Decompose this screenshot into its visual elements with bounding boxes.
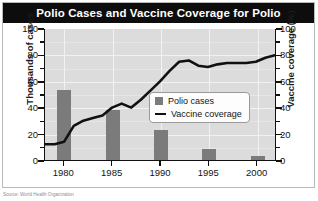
left-axis-ticklabels: 0 20 40 60 80 100 [10,24,38,166]
tick-x-1985 [111,161,113,166]
tick-right-60 [276,81,282,83]
tick-right-90 [276,41,280,42]
right-tick-20: 20 [280,129,308,140]
chart-title-bar: Polio Cases and Vaccine Coverage for Pol… [3,3,314,23]
legend-item-vaccine-coverage: Vaccine coverage [155,109,242,119]
legend-item-polio-cases: Polio cases [155,96,242,106]
left-tick-0: 0 [10,155,38,166]
tick-x-1995 [208,161,210,166]
tick-right-80 [276,55,282,57]
x-tick-label-2000: 2000 [246,167,267,178]
left-tick-100: 100 [10,23,38,34]
x-tick-label-1980: 1980 [53,167,74,178]
x-axis-ticklabels: 19801985199019952000 [44,167,276,180]
left-tick-80: 80 [10,49,38,60]
x-tick-label-1990: 1990 [149,167,170,178]
tick-right-100 [276,28,282,30]
x-tick-label-1985: 1985 [101,167,122,178]
tick-right-30 [276,121,280,122]
right-axis-ticklabels: 0 20 40 60 80 100 [280,24,308,166]
chart-legend: Polio cases Vaccine coverage [149,92,250,123]
tick-right-50 [276,94,280,95]
tick-right-40 [276,107,282,109]
tick-right-0 [276,160,282,162]
right-tick-60: 60 [280,76,308,87]
tick-right-10 [276,147,280,148]
right-tick-40: 40 [280,102,308,113]
left-tick-40: 40 [10,102,38,113]
legend-label-polio-cases: Polio cases [168,96,214,106]
tick-x-1980 [63,161,65,166]
tick-right-70 [276,68,280,69]
tick-x-1990 [159,161,161,166]
left-tick-60: 60 [10,76,38,87]
right-tick-80: 80 [280,49,308,60]
legend-label-vaccine-coverage: Vaccine coverage [171,109,242,119]
x-tick-label-1995: 1995 [198,167,219,178]
line-swatch-icon [155,113,166,116]
tick-right-20 [276,134,282,136]
chart-figure: Polio Cases and Vaccine Coverage for Pol… [0,0,318,201]
left-tick-20: 20 [10,129,38,140]
source-caption: Source: World Health Organization [3,190,303,199]
right-tick-100: 100 [280,23,308,34]
square-swatch-icon [155,97,163,105]
right-tick-0: 0 [280,155,308,166]
page-title: Polio Cases and Vaccine Coverage for Pol… [36,7,281,19]
tick-x-2000 [256,161,258,166]
